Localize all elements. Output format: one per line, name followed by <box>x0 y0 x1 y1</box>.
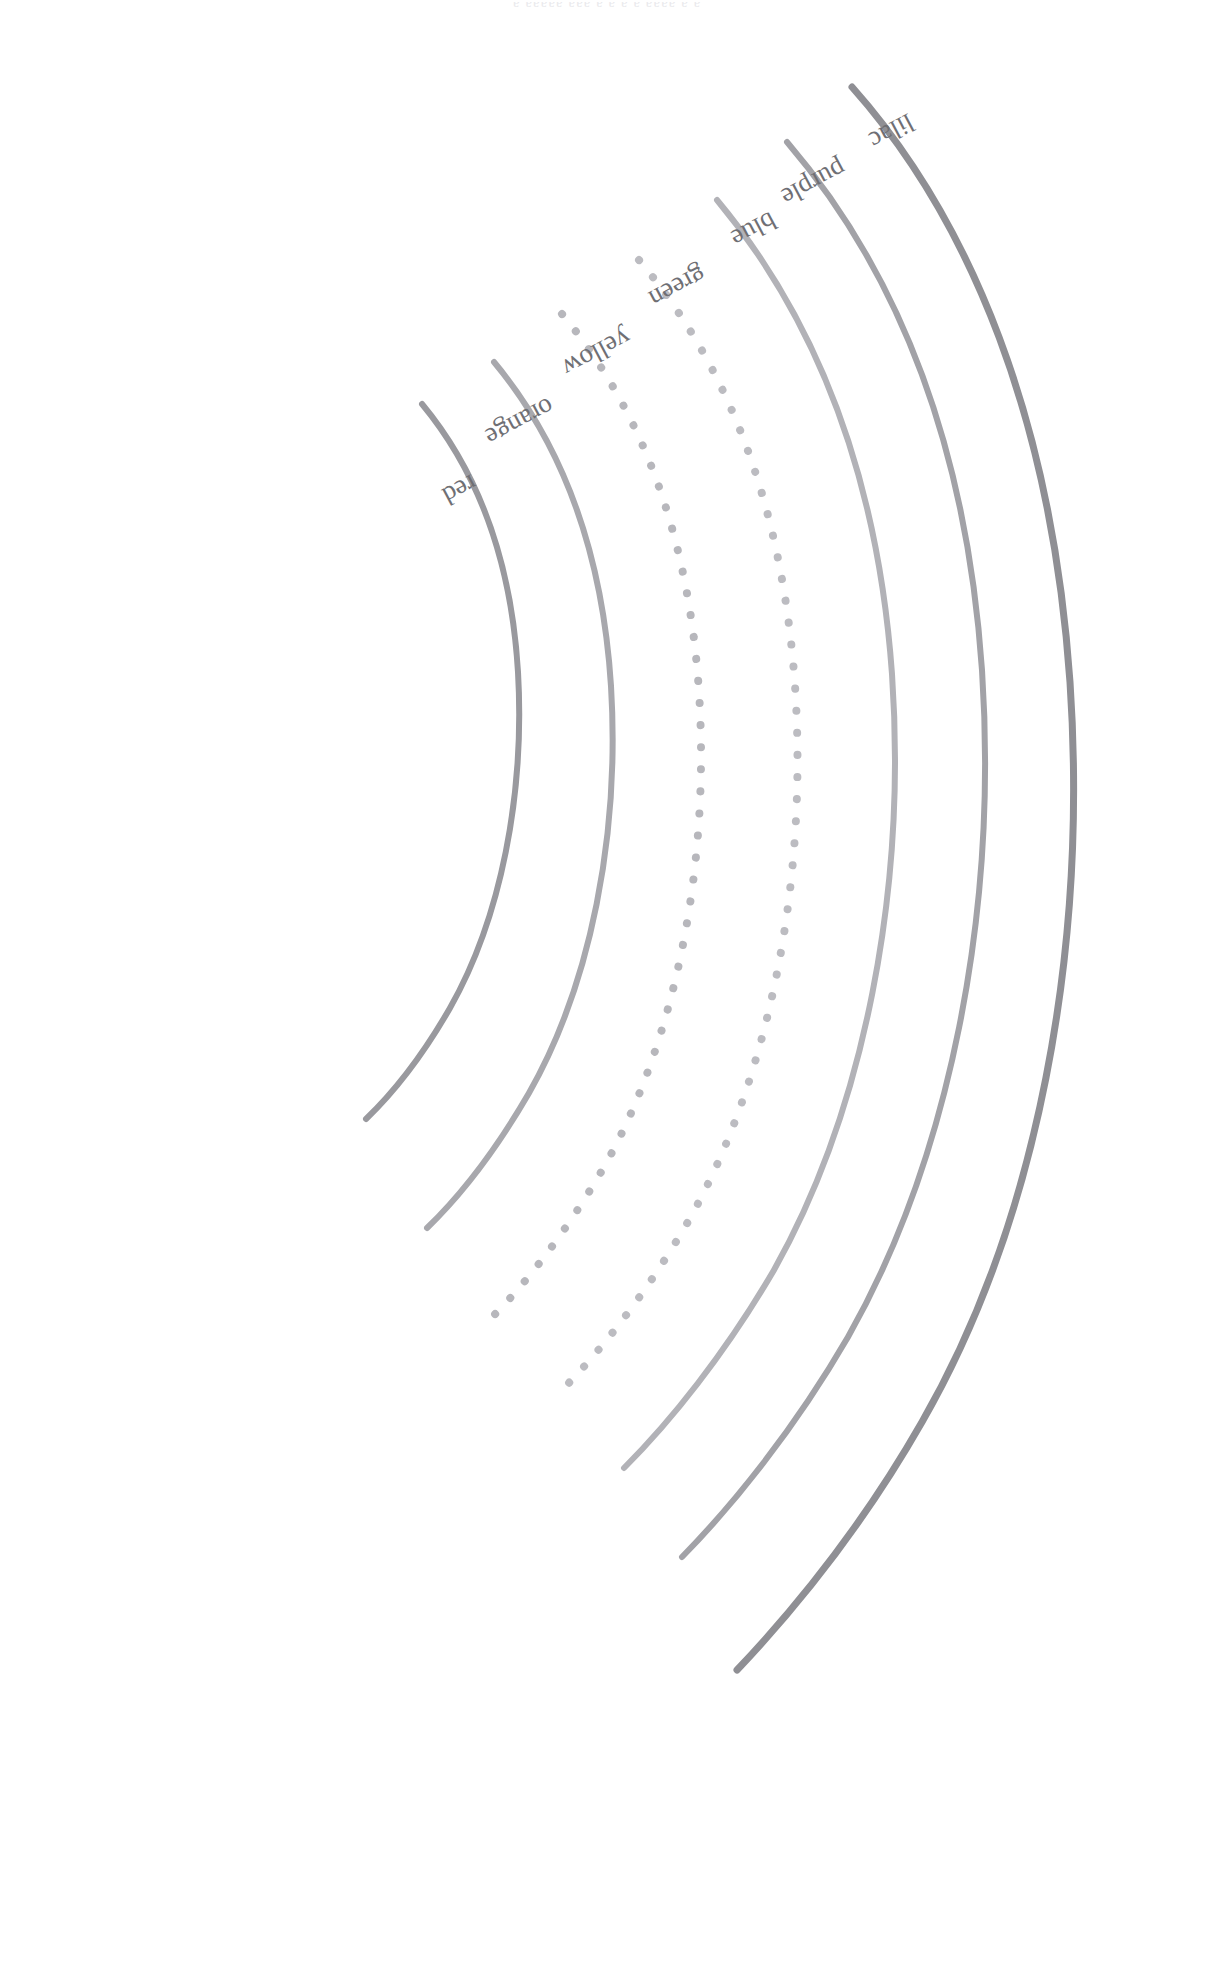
curve-lilac <box>366 404 519 1119</box>
curve-yellow <box>624 200 895 1468</box>
chart-canvas: a a aaaa a a a a aaa aaaaa a red orange … <box>0 0 1212 1982</box>
curve-green <box>554 260 798 1398</box>
curve-blue <box>484 314 701 1325</box>
rotated-plot-container: red orange yellow green blue purple lila… <box>0 0 1212 1982</box>
curve-group <box>0 0 1212 1982</box>
